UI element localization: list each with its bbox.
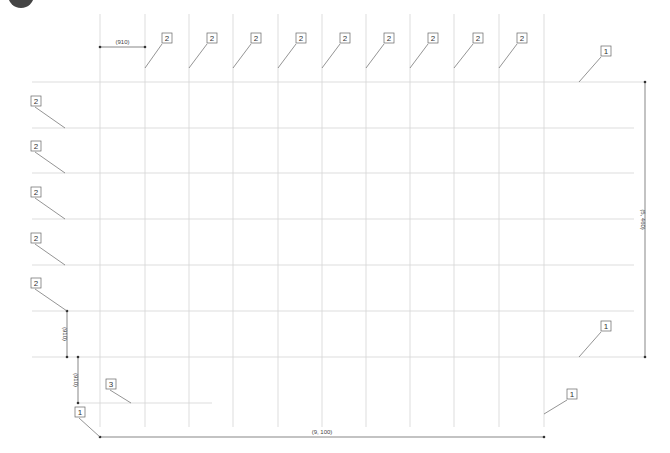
leader-line xyxy=(499,44,517,68)
leader-line xyxy=(35,244,65,265)
dimension-endpoint xyxy=(66,356,69,359)
leader-line xyxy=(35,198,65,219)
callout-number: 2 xyxy=(34,188,39,197)
dimension-endpoint xyxy=(77,356,80,359)
callout-2: 2 xyxy=(366,33,394,68)
leader-line xyxy=(454,44,473,68)
callout-2: 2 xyxy=(410,33,438,68)
callout-number: 3 xyxy=(109,380,114,389)
dimension-lines: (910)(9, 100)(910)(910)(5, 460) xyxy=(62,39,646,438)
dimension-endpoint xyxy=(77,402,80,405)
dimension-endpoint xyxy=(144,46,147,49)
callout-2: 2 xyxy=(322,33,350,68)
callout-number: 2 xyxy=(343,34,348,43)
callout-2: 2 xyxy=(31,233,65,265)
leader-line xyxy=(35,107,65,128)
callout-number: 2 xyxy=(34,97,39,106)
callout-2: 2 xyxy=(31,187,65,219)
dimension-label: (910) xyxy=(62,327,68,341)
dimension-label: (910) xyxy=(73,373,79,387)
grid-lines xyxy=(32,14,645,427)
callout-2: 2 xyxy=(454,33,483,68)
callout-number: 1 xyxy=(78,408,83,417)
callout-number: 2 xyxy=(210,34,215,43)
callout-number: 2 xyxy=(387,34,392,43)
callout-number: 1 xyxy=(570,390,575,399)
callout-1: 1 xyxy=(579,321,611,357)
callout-number: 2 xyxy=(254,34,259,43)
leader-line xyxy=(544,400,567,414)
callout-labels: 2222222221222221311 xyxy=(31,33,611,437)
callout-2: 2 xyxy=(145,33,172,68)
callout-2: 2 xyxy=(31,96,65,128)
leader-line xyxy=(79,418,100,437)
dimension-label: (5, 460) xyxy=(640,209,646,230)
leader-line xyxy=(35,289,67,311)
callout-3: 3 xyxy=(106,379,131,403)
grid-diagram: (910)(9, 100)(910)(910)(5, 460) 22222222… xyxy=(0,0,670,453)
callout-number: 2 xyxy=(34,234,39,243)
leader-line xyxy=(366,44,384,68)
callout-number: 2 xyxy=(34,142,39,151)
callout-number: 2 xyxy=(520,34,525,43)
dimension-endpoint xyxy=(644,356,647,359)
callout-number: 1 xyxy=(604,47,609,56)
callout-2: 2 xyxy=(278,33,306,68)
callout-number: 2 xyxy=(476,34,481,43)
dimension-endpoint xyxy=(99,46,102,49)
callout-2: 2 xyxy=(31,141,65,173)
leader-line xyxy=(145,44,162,68)
leader-line xyxy=(110,390,131,403)
leader-line xyxy=(189,44,207,68)
callout-number: 2 xyxy=(34,279,39,288)
callout-2: 2 xyxy=(499,33,527,68)
callout-2: 2 xyxy=(233,33,261,68)
dimension-endpoint xyxy=(644,81,647,84)
leader-line xyxy=(579,57,601,82)
leader-line xyxy=(579,332,601,357)
callout-2: 2 xyxy=(189,33,217,68)
leader-line xyxy=(35,152,65,173)
callout-2: 2 xyxy=(31,278,67,311)
dimension-endpoint xyxy=(543,436,546,439)
callout-1: 1 xyxy=(75,407,100,437)
callout-number: 2 xyxy=(431,34,436,43)
leader-line xyxy=(278,44,296,68)
callout-1: 1 xyxy=(579,46,611,82)
callout-number: 1 xyxy=(604,322,609,331)
callout-number: 2 xyxy=(299,34,304,43)
leader-line xyxy=(322,44,340,68)
leader-line xyxy=(410,44,428,68)
leader-line xyxy=(233,44,251,68)
callout-1: 1 xyxy=(544,389,577,414)
dimension-label: (910) xyxy=(115,39,129,45)
dimension-label: (9, 100) xyxy=(312,429,333,435)
callout-number: 2 xyxy=(165,34,170,43)
